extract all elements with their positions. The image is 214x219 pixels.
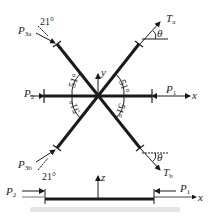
load-diagram: P3a 21° P3b 21° P2 P1 x y Ta Tb θ θ 51° … [0, 0, 214, 219]
p1-label: P1 [165, 83, 177, 97]
theta-bottom: θ [157, 151, 163, 163]
angle-21-top: 21° [40, 16, 54, 27]
angle-21-bottom: 21° [42, 171, 56, 182]
p3b-label: P3b [17, 158, 32, 172]
tb-label: Tb [163, 166, 173, 180]
p3a-label: P3a [17, 24, 32, 38]
p3a-arrow [36, 33, 55, 43]
theta-top: θ [157, 27, 163, 39]
p2-side-label: P2 [5, 185, 17, 199]
x-axis-label: x [191, 89, 197, 101]
angle-51-lower-left: 51° [67, 98, 82, 115]
figure-caption-faded [30, 207, 180, 212]
p1-side-label: P1 [179, 182, 191, 196]
p2-label: P2 [23, 87, 35, 101]
y-axis-label: y [100, 66, 106, 78]
x-axis-side-label: x [197, 191, 203, 203]
angle-51-upper-right: 51° [117, 78, 132, 95]
z-axis-label: z [100, 171, 106, 183]
p3b-arrow [36, 150, 55, 162]
ta-label: Ta [166, 12, 176, 26]
